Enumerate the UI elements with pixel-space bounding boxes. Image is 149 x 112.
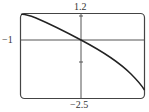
chart-plot [0, 0, 149, 112]
x-min-label: −1 [2, 35, 13, 45]
chart-frame [21, 14, 145, 99]
function-curve [21, 14, 145, 90]
y-max-label: 1.2 [74, 2, 87, 12]
y-min-label: −2.5 [70, 100, 88, 110]
